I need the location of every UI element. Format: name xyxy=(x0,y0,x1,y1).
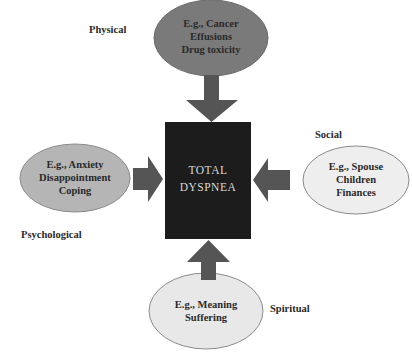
psychological-label: Psychological xyxy=(21,229,82,240)
psychological-example-2: Disappointment xyxy=(25,171,125,184)
physical-example-1: E.g., Cancer xyxy=(161,17,261,30)
psychological-examples: E.g., Anxiety Disappointment Coping xyxy=(25,158,125,197)
social-label: Social xyxy=(315,129,342,140)
down-arrow-icon xyxy=(186,75,238,122)
physical-examples: E.g., Cancer Effusions Drug toxicity xyxy=(161,17,261,56)
physical-example-2: Effusions xyxy=(161,30,261,43)
left-arrow-icon xyxy=(253,158,290,202)
title-line-1: TOTAL xyxy=(165,162,251,179)
social-example-3: Finances xyxy=(306,186,406,199)
spiritual-example-2: Suffering xyxy=(156,311,256,324)
spiritual-example-1: E.g., Meaning xyxy=(156,298,256,311)
psychological-example-1: E.g., Anxiety xyxy=(25,158,125,171)
physical-example-3: Drug toxicity xyxy=(161,43,261,56)
right-arrow-icon xyxy=(133,156,163,202)
spiritual-label: Spiritual xyxy=(270,303,310,314)
social-examples: E.g., Spouse Children Finances xyxy=(306,160,406,199)
total-dyspnea-diagram: Physical Psychological Social Spiritual … xyxy=(0,0,412,359)
social-example-1: E.g., Spouse xyxy=(306,160,406,173)
physical-label: Physical xyxy=(89,24,126,35)
title-line-2: DYSPNEA xyxy=(165,179,251,196)
total-dyspnea-title: TOTAL DYSPNEA xyxy=(165,162,251,196)
spiritual-examples: E.g., Meaning Suffering xyxy=(156,298,256,324)
psychological-example-3: Coping xyxy=(25,184,125,197)
social-example-2: Children xyxy=(306,173,406,186)
